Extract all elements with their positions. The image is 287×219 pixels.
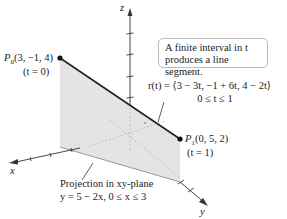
p1-coords: (0, 5, 2) [195,133,228,144]
x-axis [16,148,80,162]
p1-param: (t = 1) [187,147,213,159]
equation-leader [158,102,164,122]
point-p0 [57,55,62,60]
callout-line-1: A finite interval in t [165,42,267,54]
z-axis-label: z [120,2,124,14]
y-axis [178,180,205,203]
z-axis [127,14,134,105]
callout-line-2: produces a line segment. [165,54,267,78]
x-axis-label: x [10,165,15,177]
x-axis-arrow [9,159,18,165]
y-axis-label: y [200,206,205,218]
p0-param: (t = 0) [23,66,49,78]
shaded-plane [60,58,180,182]
z-axis-arrow [128,8,133,16]
p0-coords: (3, −1, 4) [14,52,53,63]
equation-line-2: 0 ≤ t ≤ 1 [190,93,240,105]
plane-dot [144,122,146,124]
callout-box: A finite interval in t produces a line s… [158,38,268,68]
projection-line-1: Projection in xy-plane [60,178,153,190]
point-p1 [177,136,182,141]
equation-line-1: r(t) = ⟨3 − 3t, −1 + 6t, 4 − 2t⟩ [148,80,271,92]
projection-line-2: y = 5 − 2x, 0 ≤ x ≤ 3 [60,191,146,203]
